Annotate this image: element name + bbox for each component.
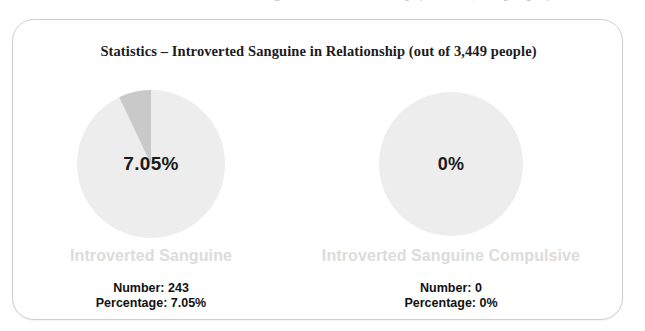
stat-number: Number: 243 (6, 281, 296, 296)
stats-block-introverted-sanguine: Number: 243 Percentage: 7.05% (6, 281, 296, 311)
pie-graphic (76, 89, 226, 239)
series-label-introverted-sanguine-compulsive: Introverted Sanguine Compulsive (306, 247, 596, 265)
chart-panel-introverted-sanguine: 7.05% Introverted Sanguine Number: 243 P… (6, 89, 296, 304)
page-title: Statistics – Introverted Sanguine in Rel… (13, 43, 624, 60)
pie-graphic (376, 89, 526, 239)
clipped-header-strip: Statistics – Introverted Sanguine in Rel… (0, 0, 645, 9)
chart-panel-introverted-sanguine-compulsive: 0% Introverted Sanguine Compulsive Numbe… (306, 89, 596, 304)
stat-percentage: Percentage: 7.05% (6, 296, 296, 311)
stat-percentage: Percentage: 0% (306, 296, 596, 311)
pie-chart-introverted-sanguine-compulsive[interactable]: 0% (376, 89, 526, 239)
statistics-card: Statistics – Introverted Sanguine in Rel… (12, 19, 623, 320)
stat-number: Number: 0 (306, 281, 596, 296)
stats-block-introverted-sanguine-compulsive: Number: 0 Percentage: 0% (306, 281, 596, 311)
series-label-introverted-sanguine: Introverted Sanguine (6, 247, 296, 265)
clipped-header-text: Statistics – Introverted Sanguine in Rel… (0, 0, 645, 2)
pie-base-slice (379, 92, 523, 236)
pie-chart-introverted-sanguine[interactable]: 7.05% (76, 89, 226, 239)
